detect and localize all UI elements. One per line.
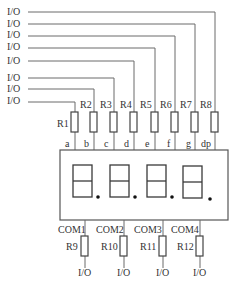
resistor-r2-label: R2 (80, 99, 92, 110)
com4-io-label: I/O (193, 267, 206, 278)
segment-label-b: b (84, 138, 89, 149)
resistor-r7-label: R7 (180, 99, 192, 110)
resistor-r7 (191, 112, 198, 132)
com1-label: COM1 (58, 224, 86, 235)
com2-label: COM2 (96, 224, 124, 235)
resistor-r3 (110, 112, 117, 132)
resistor-r12-label: R12 (177, 241, 194, 252)
decimal-point-1 (96, 195, 100, 199)
resistor-r1-label: R1 (57, 118, 69, 129)
wire-to-r1 (28, 102, 75, 115)
resistor-r9 (81, 236, 88, 256)
decimal-point-4 (208, 197, 212, 201)
segment-resistors: R1 R2 R3 R4 R5 R6 R7 R8 (57, 99, 218, 150)
segment-label-c: c (104, 138, 109, 149)
segment-label-a: a (65, 138, 70, 149)
resistor-r6-label: R6 (160, 99, 172, 110)
decimal-point-2 (133, 195, 137, 199)
resistor-r2 (90, 112, 97, 132)
segment-label-dp: dp (201, 138, 211, 149)
resistor-r3-label: R3 (100, 99, 112, 110)
com3-label: COM3 (134, 224, 162, 235)
resistor-r4 (130, 112, 137, 132)
segment-labels: a b c d e f g dp (65, 138, 211, 149)
resistor-r1 (71, 112, 78, 132)
resistor-r10-label: R10 (101, 241, 118, 252)
io-label-1: I/O (7, 6, 20, 17)
com1-io-label: I/O (78, 267, 91, 278)
resistor-r5 (151, 112, 158, 132)
resistor-r12 (196, 236, 203, 256)
com4-label: COM4 (171, 224, 199, 235)
io-label-4: I/O (7, 41, 20, 52)
io-label-2: I/O (7, 18, 20, 29)
resistor-r5-label: R5 (140, 99, 152, 110)
io-label-6: I/O (7, 72, 20, 83)
decimal-point-3 (170, 195, 174, 199)
io-label-7: I/O (7, 83, 20, 94)
seven-segment-display-module (60, 150, 228, 220)
segment-label-g: g (186, 138, 191, 149)
io-label-5: I/O (7, 55, 20, 66)
resistor-r11-label: R11 (140, 241, 156, 252)
io-label-8: I/O (7, 95, 20, 106)
resistor-r10 (120, 236, 127, 256)
io-label-3: I/O (7, 29, 20, 40)
com2-io-label: I/O (117, 267, 130, 278)
segment-label-e: e (145, 138, 150, 149)
resistor-r8 (211, 112, 218, 132)
segment-label-d: d (124, 138, 129, 149)
resistor-r6 (171, 112, 178, 132)
resistor-r8-label: R8 (200, 99, 212, 110)
segment-label-f: f (167, 138, 171, 149)
com3-io-label: I/O (156, 267, 169, 278)
resistor-r9-label: R9 (66, 241, 78, 252)
resistor-r11 (159, 236, 166, 256)
resistor-r4-label: R4 (120, 99, 132, 110)
common-lines: COM1 R9 I/O COM2 R10 I/O COM3 R11 I/O CO… (58, 220, 206, 278)
seven-segment-circuit-diagram: I/O I/O I/O I/O I/O I/O I/O I/O R1 R2 R3… (0, 0, 236, 285)
